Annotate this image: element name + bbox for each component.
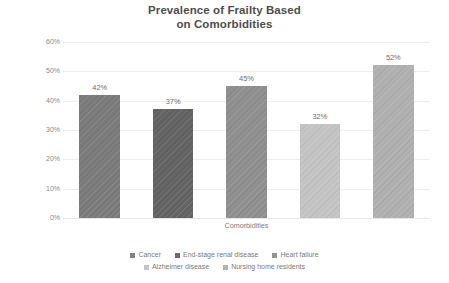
x-axis-title: Comorbidities (63, 221, 430, 230)
chart-title-line-1: Prevalence of Frailty Based (0, 3, 449, 17)
bar-data-label: 52% (357, 53, 430, 62)
y-tick-label: 50% (26, 67, 60, 75)
bar[interactable] (300, 124, 341, 218)
legend-swatch-icon (272, 253, 277, 258)
legend-label: Nursing home residents (231, 262, 305, 272)
legend-row-1: CancerEnd-stage renal diseaseHeart failu… (0, 250, 449, 260)
bar-slot: 52% (357, 42, 430, 218)
bar-slot: 32% (283, 42, 356, 218)
y-tick-label: 30% (26, 126, 60, 134)
y-axis-tick-labels: 60%50%40%30%20%10%0% (20, 42, 60, 218)
bar[interactable] (153, 109, 194, 218)
gridline-0 (63, 218, 430, 219)
legend-swatch-icon (175, 253, 180, 258)
bar[interactable] (373, 65, 414, 218)
chart-legend: CancerEnd-stage renal diseaseHeart failu… (0, 250, 449, 274)
y-tick-label: 60% (26, 38, 60, 46)
legend-item[interactable]: End-stage renal disease (175, 250, 259, 260)
bar-slot: 45% (210, 42, 283, 218)
legend-label: Heart failure (280, 250, 318, 260)
legend-label: End-stage renal disease (183, 250, 259, 260)
bar-slot: 42% (63, 42, 136, 218)
legend-swatch-icon (223, 265, 228, 270)
y-tick-label: 20% (26, 155, 60, 163)
page-bottom-artifact (0, 277, 449, 283)
bar-data-label: 42% (63, 83, 136, 92)
bar[interactable] (79, 95, 120, 218)
chart-title: Prevalence of Frailty Based on Comorbidi… (0, 3, 449, 31)
bar-data-label: 32% (283, 112, 356, 121)
y-tick-label: 10% (26, 185, 60, 193)
bar-data-label: 37% (136, 97, 209, 106)
chart-title-line-2: on Comorbidities (0, 17, 449, 31)
legend-item[interactable]: Nursing home residents (223, 262, 305, 272)
y-tick-label: 0% (26, 214, 60, 222)
legend-label: Cancer (138, 250, 161, 260)
bar-series: 42%37%45%32%52% (63, 42, 430, 218)
legend-label: Alzheimer disease (152, 262, 209, 272)
legend-swatch-icon (144, 265, 149, 270)
legend-row-2: Alzheimer diseaseNursing home residents (0, 262, 449, 272)
legend-item[interactable]: Alzheimer disease (144, 262, 209, 272)
y-tick-label: 40% (26, 97, 60, 105)
legend-item[interactable]: Heart failure (272, 250, 318, 260)
legend-item[interactable]: Cancer (130, 250, 161, 260)
bar-slot: 37% (136, 42, 209, 218)
chart-container: Prevalence of Frailty Based on Comorbidi… (0, 0, 449, 283)
bar[interactable] (226, 86, 267, 218)
legend-swatch-icon (130, 253, 135, 258)
bar-data-label: 45% (210, 74, 283, 83)
